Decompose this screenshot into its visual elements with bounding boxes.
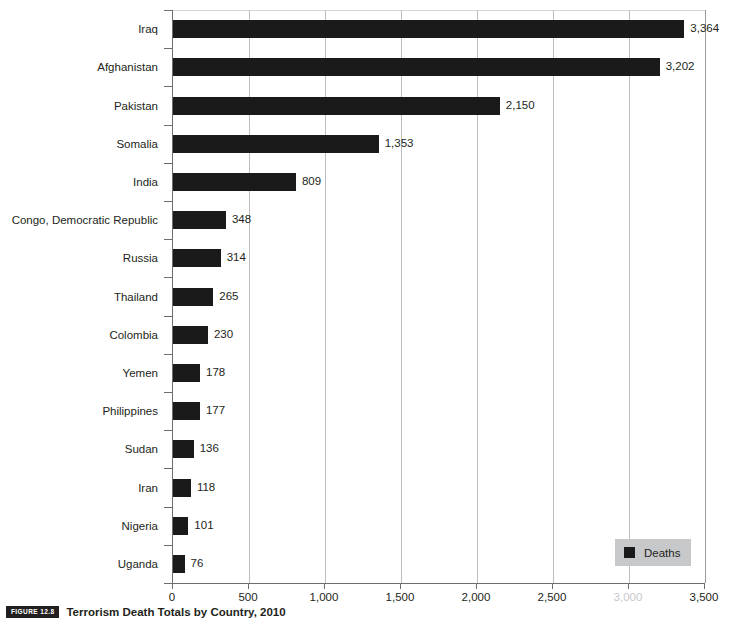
bar-russia[interactable]	[173, 249, 221, 267]
bar-iran[interactable]	[173, 479, 191, 497]
y-axis-tick	[164, 10, 172, 11]
bar-pakistan[interactable]	[173, 97, 500, 115]
legend-label-deaths: Deaths	[644, 547, 680, 559]
y-axis-label-pakistan: Pakistan	[114, 98, 158, 114]
y-axis-tick	[164, 583, 172, 584]
bar-row: 118	[173, 471, 705, 505]
figure-caption-text: Terrorism Death Totals by Country, 2010	[66, 606, 285, 618]
bar-row: 314	[173, 241, 705, 275]
bar-row: 3,364	[173, 12, 705, 46]
y-axis-label-russia: Russia	[123, 250, 158, 266]
gridline-3500	[705, 10, 706, 583]
y-axis-label-congo-democratic-republic: Congo, Democratic Republic	[12, 212, 158, 228]
bar-value-label: 265	[219, 287, 238, 306]
bar-value-label: 177	[206, 401, 225, 420]
x-axis-tick-500	[248, 583, 249, 589]
bar-value-label: 1,353	[385, 134, 414, 153]
bar-value-label: 118	[197, 478, 215, 497]
x-axis-tick-1500	[400, 583, 401, 589]
y-axis-label-philippines: Philippines	[102, 403, 158, 419]
bar-value-label: 314	[227, 248, 246, 267]
bar-row: 265	[173, 280, 705, 314]
bar-row: 348	[173, 203, 705, 237]
y-axis-tick	[164, 507, 172, 508]
bar-value-label: 101	[194, 516, 213, 535]
y-axis-tick	[164, 316, 172, 317]
y-axis-label-thailand: Thailand	[114, 289, 158, 305]
y-axis-tick	[164, 163, 172, 164]
y-axis-label-sudan: Sudan	[125, 441, 158, 457]
bar-philippines[interactable]	[173, 402, 200, 420]
y-axis-label-afghanistan: Afghanistan	[97, 59, 158, 75]
figure-caption: FIGURE 12.8 Terrorism Death Totals by Co…	[6, 604, 286, 619]
x-axis-tick-3500	[704, 583, 705, 589]
x-axis-tick-2500	[552, 583, 553, 589]
chart-legend[interactable]: Deaths	[615, 539, 691, 566]
bar-value-label: 3,202	[666, 57, 695, 76]
plot-top-border	[173, 10, 705, 11]
bar-afghanistan[interactable]	[173, 58, 660, 76]
x-axis-label-500: 500	[238, 591, 257, 603]
bar-row: 136	[173, 432, 705, 466]
plot-area: 3,3643,2022,1501,35380934831426523017817…	[172, 10, 705, 584]
y-axis-category-labels: IraqAfghanistanPakistanSomaliaIndiaCongo…	[0, 10, 166, 583]
figure-number-badge: FIGURE 12.8	[6, 606, 59, 618]
bar-row: 177	[173, 394, 705, 428]
y-axis-label-somalia: Somalia	[116, 136, 158, 152]
bar-somalia[interactable]	[173, 135, 379, 153]
bar-nigeria[interactable]	[173, 517, 188, 535]
legend-swatch-deaths	[624, 547, 635, 558]
y-axis-label-iran: Iran	[138, 480, 158, 496]
bar-iraq[interactable]	[173, 20, 684, 38]
bar-value-label: 809	[302, 172, 321, 191]
y-axis-tick	[164, 86, 172, 87]
bar-row: 178	[173, 356, 705, 390]
x-axis-tick-3000	[628, 583, 629, 589]
x-axis-tick-0	[172, 583, 173, 589]
y-axis-tick	[164, 48, 172, 49]
y-axis-label-iraq: Iraq	[138, 21, 158, 37]
x-axis-label-0: 0	[169, 591, 175, 603]
bar-congo-democratic-republic[interactable]	[173, 211, 226, 229]
x-axis-tick-1000	[324, 583, 325, 589]
y-axis-label-uganda: Uganda	[118, 556, 158, 572]
y-axis-tick	[164, 125, 172, 126]
y-axis-label-colombia: Colombia	[109, 327, 158, 343]
x-axis-tick-2000	[476, 583, 477, 589]
bar-value-label: 136	[200, 439, 219, 458]
y-axis-tick	[164, 354, 172, 355]
x-axis-label-1000: 1,000	[310, 591, 339, 603]
y-axis-tick	[164, 545, 172, 546]
bar-value-label: 178	[206, 363, 225, 382]
bar-row: 1,353	[173, 127, 705, 161]
y-axis-label-yemen: Yemen	[123, 365, 158, 381]
bar-sudan[interactable]	[173, 440, 194, 458]
y-axis-tick	[164, 468, 172, 469]
bar-value-label: 348	[232, 210, 251, 229]
bar-row: 2,150	[173, 89, 705, 123]
y-axis-tick	[164, 430, 172, 431]
y-axis-tick	[164, 277, 172, 278]
x-axis-label-3500: 3,500	[690, 591, 719, 603]
bar-colombia[interactable]	[173, 326, 208, 344]
x-axis-label-2500: 2,500	[538, 591, 567, 603]
bar-row: 809	[173, 165, 705, 199]
x-axis-label-1500: 1,500	[386, 591, 415, 603]
y-axis-tick	[164, 239, 172, 240]
y-axis-label-india: India	[133, 174, 158, 190]
bar-value-label: 2,150	[506, 96, 535, 115]
y-axis-label-nigeria: Nigeria	[122, 518, 158, 534]
bar-value-label: 76	[191, 554, 204, 573]
y-axis-tick	[164, 392, 172, 393]
bar-row: 3,202	[173, 50, 705, 84]
x-axis-label-3000: 3,000	[614, 591, 643, 603]
bar-row: 230	[173, 318, 705, 352]
figure-terrorism-death-totals: IraqAfghanistanPakistanSomaliaIndiaCongo…	[0, 0, 730, 619]
bar-yemen[interactable]	[173, 364, 200, 382]
bar-thailand[interactable]	[173, 288, 213, 306]
bar-india[interactable]	[173, 173, 296, 191]
bar-row: 101	[173, 509, 705, 543]
y-axis-tick	[164, 201, 172, 202]
bar-uganda[interactable]	[173, 555, 185, 573]
x-axis-label-2000: 2,000	[462, 591, 491, 603]
